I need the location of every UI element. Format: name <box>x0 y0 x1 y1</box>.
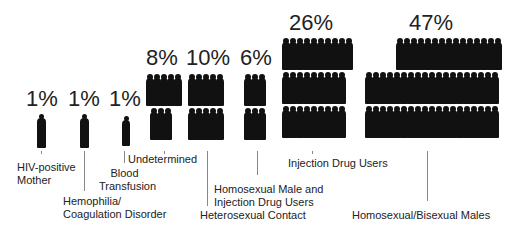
person-icon <box>164 112 172 140</box>
label-homo-idu: Homosexual Male andInjection Drug Users <box>214 183 323 209</box>
person-icon <box>338 110 346 138</box>
pct-hemophilia: 1% <box>68 88 100 110</box>
leader-line <box>207 151 208 206</box>
person-icon <box>37 118 46 148</box>
pct-mother: 1% <box>26 88 58 110</box>
person-icon <box>258 78 266 106</box>
leader-line <box>257 151 258 175</box>
leader-line <box>41 151 42 154</box>
person-icon <box>258 112 266 140</box>
label-homosexual: Homosexual/Bisexual Males <box>352 209 490 222</box>
label-blood: BloodTransfusion <box>99 167 156 193</box>
person-icon <box>122 120 130 146</box>
pct-heterosexual: 10% <box>186 47 230 69</box>
person-icon <box>216 112 224 140</box>
group-idu <box>282 40 352 138</box>
person-icon <box>80 118 89 148</box>
pct-homosexual: 47% <box>409 12 453 34</box>
leader-line <box>84 151 85 191</box>
label-mother: HIV-positiveMother <box>17 161 76 187</box>
person-icon <box>345 42 353 70</box>
leader-line <box>427 151 428 201</box>
group-homo-idu <box>244 76 265 140</box>
leader-line <box>312 151 313 154</box>
pct-idu: 26% <box>289 12 333 34</box>
label-hemophilia: Hemophilia/Coagulation Disorder <box>63 195 166 221</box>
pct-homo-idu: 6% <box>240 47 272 69</box>
group-heterosexual <box>188 76 223 140</box>
label-undetermined: Undetermined <box>128 153 197 166</box>
pct-undetermined: 8% <box>146 47 178 69</box>
group-homosexual <box>365 40 501 138</box>
group-undetermined <box>146 76 181 140</box>
pct-blood: 1% <box>109 88 141 110</box>
person-icon <box>494 42 502 70</box>
person-icon <box>491 76 499 104</box>
person-icon <box>216 78 224 106</box>
leader-line <box>124 151 125 163</box>
person-icon <box>338 76 346 104</box>
person-icon <box>491 110 499 138</box>
label-heterosexual: Heterosexual Contact <box>200 209 306 222</box>
label-idu: Injection Drug Users <box>288 157 388 170</box>
person-icon <box>174 78 182 106</box>
